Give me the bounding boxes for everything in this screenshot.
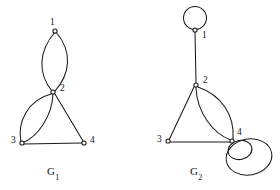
graph-g2 [166, 7, 275, 179]
vertex-g1-3[interactable] [20, 141, 24, 145]
vertex-g1-1[interactable] [53, 29, 57, 33]
edge-g1-2-4 [55, 94, 83, 141]
vertex-label-g2-4: 4 [237, 128, 242, 138]
vertex-g2-1[interactable] [193, 28, 197, 32]
vertex-label-g1-3: 3 [11, 136, 16, 146]
vertex-g2-4[interactable] [230, 139, 234, 143]
edge-g1-3-4 [24, 143, 82, 144]
graph-g1 [20, 29, 86, 145]
edge-g2-2-3 [169, 87, 194, 140]
edge-g2-2-4-inner [196, 88, 231, 140]
vertex-label-g2-1: 1 [202, 31, 207, 41]
vertex-g2-2[interactable] [194, 83, 198, 87]
vertex-label-g1-1: 1 [50, 18, 55, 28]
graph-caption-g1: G1 [47, 166, 59, 180]
graph-caption-g1-base: G [47, 165, 55, 177]
edge-g1-1-2-left [42, 32, 55, 91]
graph-caption-g1-subscript: 1 [55, 173, 59, 182]
graph-caption-g2-subscript: 2 [198, 173, 202, 182]
graph-figure: 1 2 3 4 1 2 3 4 G1 G2 [0, 0, 280, 190]
vertex-label-g1-2: 2 [60, 84, 65, 94]
vertex-label-g1-4: 4 [90, 136, 95, 146]
graph-caption-g2-base: G [190, 165, 198, 177]
vertex-g1-4[interactable] [82, 141, 86, 145]
vertex-label-g2-3: 3 [157, 135, 162, 145]
vertex-g2-3[interactable] [166, 139, 170, 143]
graph-drawing-canvas [0, 0, 280, 190]
edge-g1-2-3-inner [22, 94, 53, 143]
self-loop-g2-vertex-1 [184, 7, 207, 30]
edge-g2-1-2 [195, 32, 196, 83]
vertex-g1-2[interactable] [51, 90, 55, 94]
graph-caption-g2: G2 [190, 166, 202, 180]
vertex-label-g2-2: 2 [203, 76, 208, 86]
